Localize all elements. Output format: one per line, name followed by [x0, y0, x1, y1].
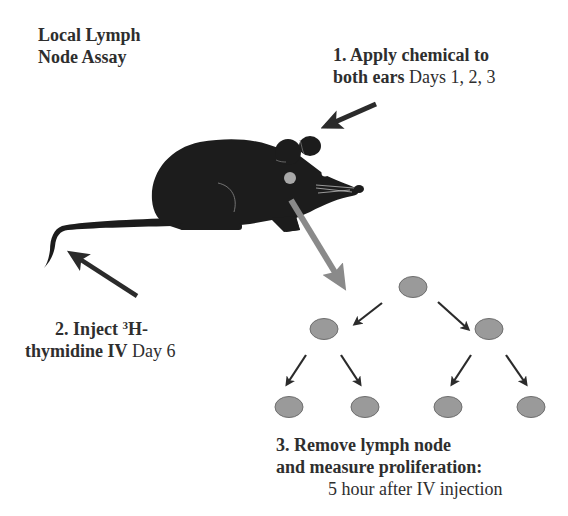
step-1-bold-line2: both ears — [333, 67, 405, 87]
step-1-days: Days 1, 2, 3 — [409, 67, 496, 87]
step-3-bold-line1: Remove lymph node — [294, 435, 451, 455]
step-2-bold-suffix: H- — [128, 319, 148, 339]
step-3-timing: 5 hour after IV injection — [276, 478, 503, 500]
cell-level-0 — [399, 277, 427, 298]
cell-level-1-right — [475, 319, 503, 340]
mouse-ear-front — [299, 136, 321, 156]
step-2-bold-line2: thymidine IV — [25, 341, 128, 361]
mouse-hind-foot — [180, 223, 242, 230]
proliferating-cells — [275, 277, 545, 418]
cell-level-2-c — [434, 397, 462, 418]
diagram-title: Local Lymph Node Assay — [38, 24, 141, 68]
step-2-bold-prefix: Inject — [73, 319, 122, 339]
lymph-node-marker — [284, 172, 296, 184]
step-3-label: 3. Remove lymph node and measure prolife… — [276, 434, 503, 500]
cell-level-1-left — [310, 319, 338, 340]
title-line-2: Node Assay — [38, 46, 141, 68]
mouse-illustration — [44, 136, 364, 268]
step-3-number: 3. — [276, 435, 290, 455]
step-1-label: 1. Apply chemical to both ears Days 1, 2… — [333, 44, 496, 88]
title-line-1: Local Lymph — [38, 24, 141, 46]
tail-arrow — [72, 254, 137, 296]
step-2-day: Day 6 — [132, 341, 176, 361]
ear-arrow — [326, 104, 376, 126]
step-2-label: 2. Inject 3H- thymidine IV Day 6 — [25, 318, 176, 362]
step-1-bold-line1: Apply chemical to — [350, 45, 489, 65]
cell-level-2-a — [275, 397, 303, 418]
lymph-node-arrow — [291, 200, 342, 284]
mouse-nose — [354, 185, 364, 193]
mouse-eye — [322, 170, 329, 177]
step-1-number: 1. — [333, 45, 347, 65]
cell-level-2-b — [351, 397, 379, 418]
proliferation-arrows — [287, 302, 526, 384]
step-3-bold-line2: and measure proliferation: — [276, 456, 503, 478]
step-2-number: 2. — [55, 319, 69, 339]
mouse-tail — [44, 218, 172, 268]
cell-level-2-d — [517, 397, 545, 418]
